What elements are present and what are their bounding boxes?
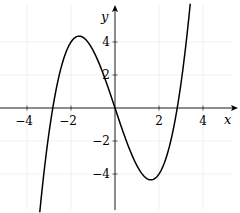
y-tick-label: −2 <box>92 134 110 148</box>
x-tick-label: −2 <box>59 114 77 128</box>
y-axis-label: y <box>100 9 109 24</box>
function-plot: −4−22442−2−4 x y <box>0 0 240 213</box>
x-tick-label: −4 <box>15 114 33 128</box>
y-tick-label: −4 <box>92 167 110 181</box>
axes <box>0 5 238 210</box>
x-axis-label: x <box>224 112 232 127</box>
y-tick-label: 4 <box>102 35 110 49</box>
x-tick-label: 2 <box>155 114 163 128</box>
x-tick-label: 4 <box>199 114 207 128</box>
grid-lines <box>0 5 232 210</box>
